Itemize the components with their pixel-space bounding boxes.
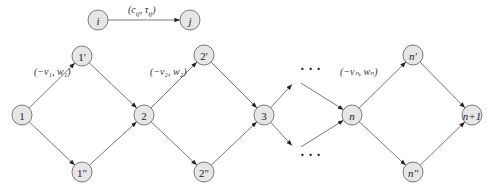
node-n: n [342,105,362,125]
edge-1pp-to-2 [89,122,136,165]
node-label: n' [409,50,418,62]
edge-1-to-1pp [29,122,75,165]
edge-dots_up-to-n [301,83,343,110]
node-label: 3 [261,110,267,122]
edge-2-to-2pp [151,122,197,165]
edge-np-to-n1 [420,62,465,108]
edge-2p-to-3 [211,62,257,108]
node-label: n" [408,167,419,179]
node-1: 1 [12,105,32,125]
node-label: i [96,15,99,27]
node-label: n [349,110,355,122]
node-2p: 2' [194,45,214,65]
edge-label-2: (−v₂, w₂) [150,66,187,78]
node-3: 3 [254,105,274,125]
node-label: n+1 [463,110,481,122]
edge-3-to-dots_up [271,84,292,107]
node-2pp: 2" [194,162,214,182]
node-label: 2 [141,110,147,122]
edge-3-to-dots_down [271,122,292,145]
edge-label-1: (−v₁, w₁) [34,66,71,78]
node-label: 1 [19,110,25,122]
node-j: j [180,10,200,30]
legend-edge-label: (cij, τij) [128,4,156,18]
node-1p: 1' [72,46,92,66]
ellipsis-lower: · · · [300,148,321,163]
ellipsis-layer: · · · · · · [300,62,321,163]
node-2: 2 [134,105,154,125]
node-npp: n" [403,162,423,182]
edge-1p-to-2 [89,63,137,108]
edges-layer [29,20,465,165]
edge-dots_down-to-n [301,120,343,147]
edge-npp-to-n1 [420,122,465,165]
network-diagram: · · · · · · ij11'1"22'2"3nn'n"n+1 (cij, … [0,0,497,189]
node-i: i [88,10,108,30]
edge-label-n: (−vₙ, wₙ) [340,66,378,78]
node-label: 2' [200,50,208,62]
node-label: 1' [78,51,86,63]
node-label: 2" [199,167,209,179]
node-1pp: 1" [72,162,92,182]
node-label: 1" [77,167,87,179]
ellipsis-upper: · · · [300,62,321,77]
edge-2pp-to-3 [211,122,257,165]
node-n1: n+1 [462,105,482,125]
nodes-layer: ij11'1"22'2"3nn'n"n+1 [12,10,482,182]
edge-n-to-npp [359,122,405,165]
node-np: n' [403,45,423,65]
